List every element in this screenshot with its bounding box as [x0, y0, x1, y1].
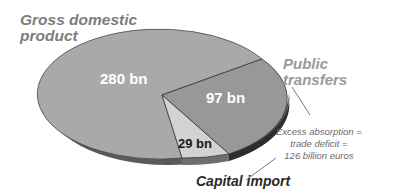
label-gdp-line1: Gross domestic [20, 12, 137, 28]
label-public-transfers: Public transfers [283, 56, 347, 88]
annotation-line1: Excess absorption = [276, 126, 362, 138]
label-gross-domestic-product: Gross domestic product [20, 12, 137, 45]
value-gdp: 280 bn [100, 70, 148, 87]
label-capital-import: Capital import [196, 174, 290, 189]
value-capital-import: 29 bn [178, 136, 212, 151]
annotation-line2: trade deficit = [276, 138, 362, 150]
label-pt-line1: Public [283, 56, 347, 72]
value-public-transfers: 97 bn [206, 89, 245, 106]
label-gdp-line2: product [20, 28, 137, 44]
label-pt-line2: transfers [283, 72, 347, 88]
annotation-line3: 126 billion euros [276, 150, 362, 162]
annotation-excess-absorption: Excess absorption = trade deficit = 126 … [276, 126, 362, 162]
leader-public-transfers [292, 87, 310, 115]
